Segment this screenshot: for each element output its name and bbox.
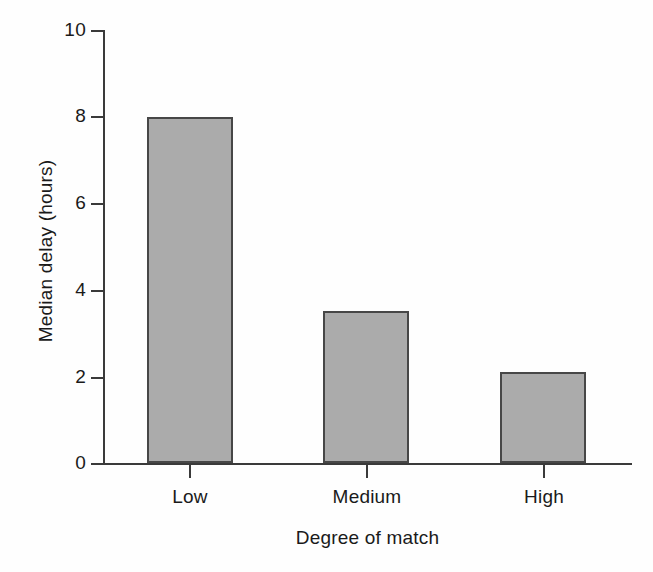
y-axis-line — [103, 30, 105, 464]
y-axis-tick-label-10: 10 — [52, 20, 86, 39]
bar-chart-figure: 10 8 6 4 2 0 Low Medium High Degree of m… — [0, 0, 653, 572]
bar-medium — [323, 311, 409, 463]
y-axis-tick-label-0-wrap: 0 — [48, 453, 86, 473]
x-axis-tick-medium — [366, 465, 368, 478]
x-axis-tick-low — [189, 465, 191, 478]
y-axis-tick-0 — [91, 463, 103, 465]
y-axis-tick-8 — [91, 116, 103, 118]
y-axis-tick-10 — [91, 30, 103, 32]
y-axis-tick-2 — [91, 377, 103, 379]
y-axis-tick-4 — [91, 290, 103, 292]
y-axis-tick-6 — [91, 203, 103, 205]
plot-area: 10 8 6 4 2 0 Low Medium High Degree of m… — [0, 0, 653, 572]
bar-low — [147, 117, 233, 463]
y-axis-tick-label-8: 8 — [52, 106, 86, 125]
x-axis-tick-label-low: Low — [110, 487, 270, 508]
y-axis-tick-label-0: 0 — [52, 453, 86, 472]
y-axis-tick-label-6: 6 — [52, 193, 86, 212]
x-axis-tick-label-high: High — [464, 487, 624, 508]
x-axis-tick-high — [543, 465, 545, 478]
y-axis-title: Median delay (hours) — [35, 101, 57, 401]
y-axis-tick-label-4: 4 — [52, 280, 86, 299]
bar-high — [500, 372, 586, 463]
x-axis-tick-label-medium: Medium — [287, 487, 447, 508]
y-axis-tick-label-10-wrap: 10 — [48, 20, 86, 40]
x-axis-title: Degree of match — [103, 527, 632, 549]
y-axis-tick-label-2: 2 — [52, 367, 86, 386]
